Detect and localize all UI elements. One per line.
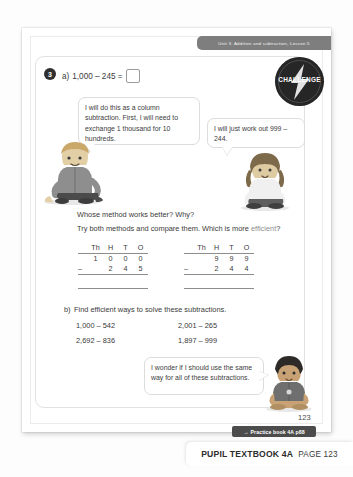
table-cell: 4 [224,264,239,275]
prose-highlight-efficient: efficient [251,224,276,233]
table-header-cell: O [133,243,148,254]
table-cell: 0 [133,254,148,265]
answer-cell[interactable] [103,275,118,289]
table-cell: 2 [103,264,118,275]
table-cell: 4 [239,264,254,275]
table-cell: 0 [103,254,118,265]
table-header-cell: Th [194,243,209,254]
table-row: – 2 4 5 [78,264,148,275]
answer-cell[interactable] [239,275,254,289]
operator-cell: – [78,264,88,275]
table-cell: 2 [209,264,224,275]
operator-cell: – [184,264,194,275]
table-cell: 9 [209,254,224,265]
question-number: 3 [44,68,56,80]
book-title: PUPIL TEXTBOOK 4A [201,449,293,459]
table-row-answer [184,275,254,289]
challenge-badge: CHALLENGE [275,57,324,106]
prose-line-2-before: Try both methods and compare them. Which… [77,224,251,233]
table-header-cell: H [209,243,224,254]
table-cell: 1 [88,254,103,265]
question-a-line: a) 1,000 – 245 = [62,69,140,83]
part-b-expression-1: 1,000 – 542 [76,321,115,330]
book-page-label: PAGE 123 [298,450,338,459]
table-header-cell: O [239,243,254,254]
column-subtraction-right: Th H T O 9 9 9 – 2 4 4 [184,243,254,289]
part-b-expression-4: 1,897 – 999 [178,336,217,345]
table-cell: 0 [118,254,133,265]
table-row: 1 0 0 0 [78,254,148,265]
prose-line-2: Try both methods and compare them. Which… [77,224,280,233]
table-cell [184,254,194,265]
table-cell [184,275,194,289]
table-header-cell: T [224,243,239,254]
answer-cell[interactable] [224,275,239,289]
practice-book-link[interactable]: → Practice book 4A p88 [232,426,316,437]
character-boy-bottom [259,352,319,414]
arrow-right-icon: → [243,429,248,435]
table-row: Th H T O [184,243,254,254]
bottom-title-bar: PUPIL TEXTBOOK 4A PAGE 123 [186,442,353,466]
part-b-expression-3: 2,001 – 265 [178,321,217,330]
answer-cell[interactable] [118,275,133,289]
table-cell: 5 [133,264,148,275]
table-cell: 4 [118,264,133,275]
page-screenshot: Unit 3: Addition and subtraction, Lesson… [0,0,353,477]
question-expression: 1,000 – 245 = [72,72,122,81]
answer-cell[interactable] [194,275,209,289]
table-row-answer [78,275,148,289]
speech-bubble-right: I will just work out 999 – 244. [207,118,305,148]
prose-line-1: Whose method works better? Why? [77,210,194,219]
table-cell [78,243,88,254]
table-cell [194,264,209,275]
speech-bubble-bottom: I wonder if I should use the same way fo… [144,357,264,395]
table-header-cell: T [118,243,133,254]
table-row: 9 9 9 [184,254,254,265]
part-a-label: a) [62,72,69,81]
answer-box-input[interactable] [126,69,140,83]
running-head: Unit 3: Addition and subtraction, Lesson… [197,36,331,50]
table-cell: 9 [224,254,239,265]
answer-cell[interactable] [88,275,103,289]
character-boy-left [42,136,114,206]
table-header-cell: H [103,243,118,254]
table-cell [78,254,88,265]
table-row: – 2 4 4 [184,264,254,275]
challenge-badge-label: CHALLENGE [275,76,324,83]
table-cell [78,275,88,289]
table-cell [184,243,194,254]
table-cell [194,254,209,265]
page-number: 123 [298,413,311,422]
table-header-cell: Th [88,243,103,254]
table-row: Th H T O [78,243,148,254]
column-subtraction-left: Th H T O 1 0 0 0 – 2 4 5 [78,243,148,289]
table-cell [88,264,103,275]
part-b-label: b) [64,305,71,314]
practice-book-label: Practice book 4A p88 [251,429,305,435]
part-b-expression-2: 2,692 – 836 [76,336,115,345]
table-cell: 9 [239,254,254,265]
prose-line-2-after: ? [276,224,280,233]
part-b-instruction: Find efficient ways to solve these subtr… [74,305,226,314]
character-girl-right [232,150,298,212]
answer-cell[interactable] [133,275,148,289]
answer-cell[interactable] [209,275,224,289]
